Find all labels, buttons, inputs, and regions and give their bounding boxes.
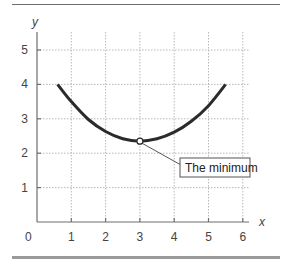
annotation-text: The minimum [185, 161, 258, 175]
minimum-annotation: The minimum [137, 138, 258, 177]
x-axis-title: x [258, 215, 266, 229]
minimum-marker [137, 138, 143, 144]
y-tick-label: 4 [21, 77, 28, 91]
annotation-leader-line [142, 143, 181, 165]
x-tick-label: 1 [68, 230, 75, 244]
x-tick-label: 5 [205, 230, 212, 244]
curve-line [58, 84, 226, 141]
y-tick-label: 1 [21, 181, 28, 195]
x-tick-label: 2 [102, 230, 109, 244]
x-tick-label: 4 [171, 230, 178, 244]
y-tick-label: 3 [21, 112, 28, 126]
y-axis-title: y [31, 15, 39, 29]
x-tick-label: 3 [137, 230, 144, 244]
origin-label: 0 [25, 230, 32, 244]
y-tick-label: 2 [21, 146, 28, 160]
y-tick-label: 5 [21, 43, 28, 57]
x-tick-label: 6 [239, 230, 246, 244]
chart-figure: 12345612345 x y 0 The minimum [0, 0, 282, 261]
ticks: 12345612345 [21, 43, 246, 244]
grid [37, 32, 249, 222]
chart-svg: 12345612345 x y 0 The minimum [0, 0, 282, 261]
axes [37, 32, 249, 222]
